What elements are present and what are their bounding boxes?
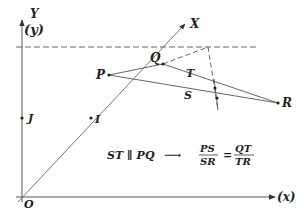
point-r-label: R: [281, 96, 292, 110]
frac1-denominator: SR: [200, 156, 216, 167]
equation-lhs: ST ∥ PQ: [107, 149, 155, 162]
origin-label: O: [24, 198, 34, 208]
point-p-dot: [107, 73, 110, 76]
point-q-label: Q: [150, 51, 161, 65]
point-t-dot: [213, 86, 216, 89]
geometry-diagram: Y (y) X (x) O P Q R T S J I ST ∥ PQ ⟶ PS…: [0, 0, 307, 208]
point-j-dot: [20, 116, 23, 119]
pq-segment: [109, 64, 163, 75]
dashed-q-apex-line: [163, 47, 208, 64]
y-paren-label: (y): [24, 22, 44, 37]
st-segment: [214, 79, 218, 110]
x-oblique-label: X: [189, 17, 200, 31]
y-axis-label: Y: [30, 7, 40, 21]
point-s-dot: [215, 96, 218, 99]
point-s-label: S: [184, 89, 192, 102]
x-paren-label: (x): [277, 190, 296, 204]
point-j-label: J: [26, 112, 34, 125]
point-r-dot: [276, 101, 279, 104]
point-p-label: P: [95, 68, 106, 82]
frac2-denominator: TR: [235, 156, 251, 167]
frac2-numerator: QT: [235, 143, 253, 154]
frac1-numerator: PS: [199, 143, 215, 154]
point-t-label: T: [186, 67, 195, 80]
point-i-label: I: [94, 113, 101, 126]
point-i-dot: [89, 116, 92, 119]
qr-segment: [163, 64, 278, 103]
ratio-equation: ST ∥ PQ ⟶ PS SR = QT TR: [107, 143, 254, 167]
equation-equals: =: [223, 149, 232, 162]
equation-arrow: ⟶: [164, 148, 181, 162]
point-q-dot: [161, 62, 164, 65]
